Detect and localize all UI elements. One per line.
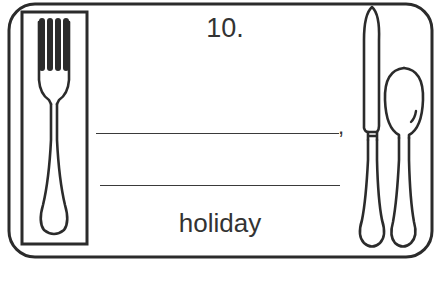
knife-icon <box>360 7 384 247</box>
fork-icon <box>39 18 69 234</box>
card-word: holiday <box>150 207 290 239</box>
blank-line-2 <box>100 185 340 186</box>
place-card: 10. , holiday <box>0 0 439 289</box>
spoon-icon <box>385 68 423 247</box>
blank-line-1-comma: , <box>338 116 344 138</box>
fork-frame <box>22 12 87 244</box>
blank-line-1 <box>96 133 339 134</box>
card-number: 10. <box>170 12 280 44</box>
